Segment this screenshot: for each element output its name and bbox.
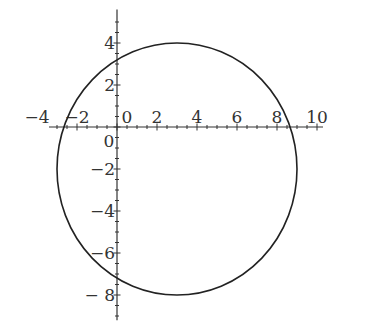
y-tick-label: 2 — [104, 75, 115, 95]
y-tick-label: − 8 — [85, 285, 115, 305]
y-tick-label: −2 — [90, 159, 115, 179]
x-tick-label: 2 — [152, 107, 163, 127]
tick-labels: −4−20246810420−2−4−6− 8 — [24, 33, 327, 305]
x-tick-label: −4 — [24, 107, 49, 127]
circle-plot: −4−20246810420−2−4−6− 8 — [0, 0, 366, 336]
y-tick-label: 0 — [104, 131, 115, 151]
x-tick-label: 4 — [192, 107, 203, 127]
x-tick-label: 8 — [272, 107, 283, 127]
x-tick-label: 0 — [122, 107, 133, 127]
y-tick-label: 4 — [104, 33, 115, 53]
y-tick-label: −4 — [90, 201, 115, 221]
x-tick-label: 6 — [232, 107, 243, 127]
x-tick-label: 10 — [306, 107, 328, 127]
